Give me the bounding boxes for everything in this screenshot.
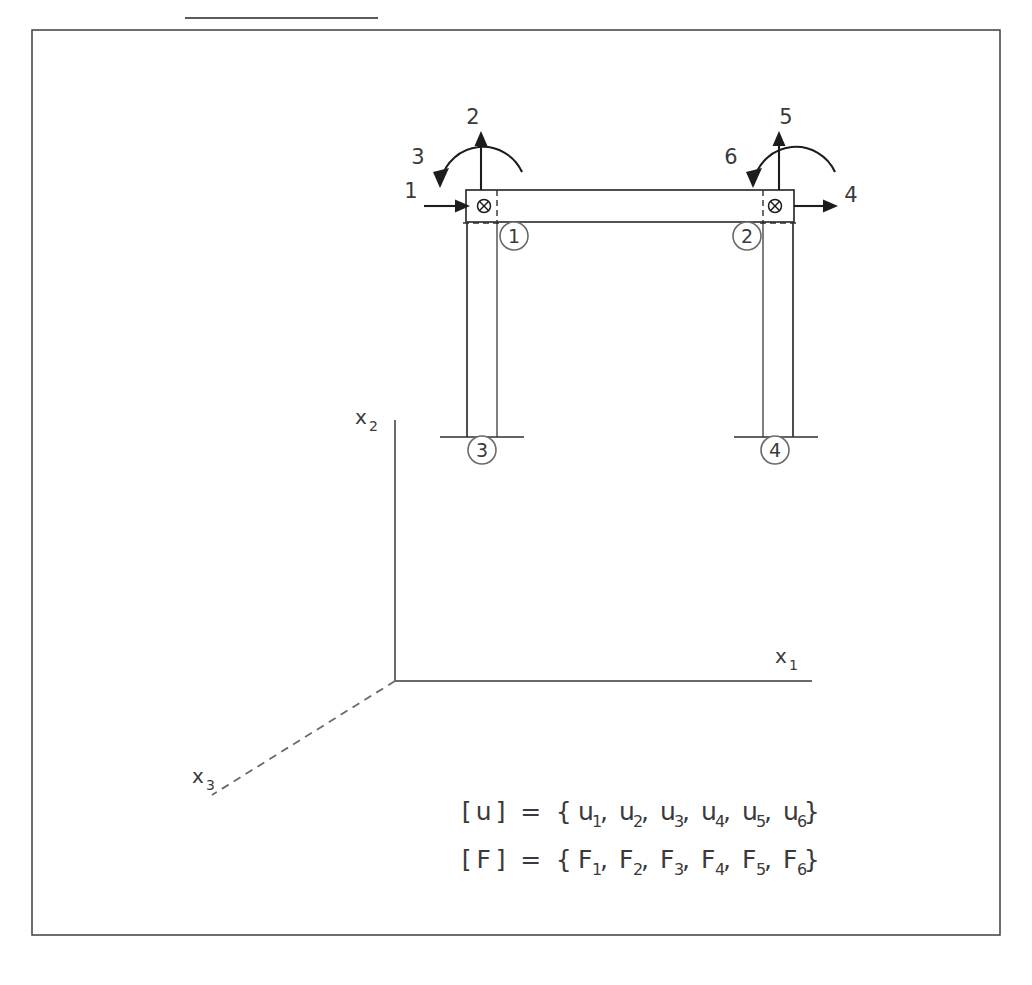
axis-x3-line	[212, 681, 395, 795]
axis-x3-base: x	[192, 764, 204, 788]
axis-label-x3: x 3	[192, 764, 215, 793]
dof-label-1: 1	[404, 179, 417, 203]
dof-arrow-5	[773, 131, 786, 190]
axis-label-x1: x 1	[775, 644, 798, 673]
eq-f-brace-open: {	[556, 845, 572, 874]
eq-f-comma-3: ,	[682, 845, 690, 874]
axis-x1-base: x	[775, 644, 787, 668]
dof-4-head	[823, 200, 838, 213]
node-3-label: 3	[476, 439, 488, 461]
eq-u-brace-open: {	[556, 797, 572, 826]
eq-f-term-6-base: F	[783, 845, 798, 874]
eq-u-comma-1: ,	[600, 797, 608, 826]
node-2-label: 2	[741, 225, 753, 247]
eq-f-term-3-base: F	[660, 845, 675, 874]
axis-x2-base: x	[355, 405, 367, 429]
eq-u-bracket-close: ]	[496, 797, 506, 826]
eq-u-symbol: u	[476, 797, 492, 826]
dof-label-5: 5	[779, 105, 792, 129]
eq-f-comma-1: ,	[600, 845, 608, 874]
eq-f-bracket-close: ]	[496, 845, 506, 874]
equation-force: [ F ] = { F 1 , F 2 , F 3 , F 4 , F 5 , …	[462, 845, 820, 879]
eq-f-bracket-open: [	[462, 845, 472, 874]
joint-marker-left	[478, 200, 491, 213]
eq-u-comma-2: ,	[641, 797, 649, 826]
joint-marker-right	[769, 200, 782, 213]
axis-x1-subscript: 1	[789, 657, 798, 673]
axis-x2-subscript: 2	[369, 418, 378, 434]
node-1-label: 1	[508, 225, 520, 247]
node-2: 2	[733, 222, 761, 250]
dof-3-head	[433, 168, 449, 188]
eq-f-term-4-base: F	[701, 845, 716, 874]
page-border	[32, 30, 1000, 935]
dof-2-head	[475, 131, 488, 146]
axis-label-x2: x 2	[355, 405, 378, 434]
eq-f-comma-2: ,	[641, 845, 649, 874]
eq-f-symbol: F	[477, 845, 492, 874]
dof-label-3: 3	[411, 145, 424, 169]
dof-label-4: 4	[844, 183, 857, 207]
portal-frame-diagram: 1 2 3 4 5 6	[0, 0, 1032, 985]
eq-u-comma-5: ,	[764, 797, 772, 826]
node-4-label: 4	[769, 439, 781, 461]
axis-x3-subscript: 3	[206, 777, 215, 793]
eq-f-term-5-base: F	[742, 845, 757, 874]
dof-6-head	[746, 168, 762, 188]
portal-frame-structure	[440, 190, 818, 437]
node-1: 1	[500, 222, 528, 250]
eq-u-bracket-open: [	[462, 797, 472, 826]
dof-6-arc	[754, 147, 835, 180]
equation-displacement: [ u ] = { u 1 , u 2 , u 3 , u 4 , u 5 , …	[462, 797, 820, 831]
eq-f-term-1-base: F	[578, 845, 593, 874]
eq-f-comma-5: ,	[764, 845, 772, 874]
dof-arrow-1	[424, 200, 470, 213]
eq-f-term-2-base: F	[619, 845, 634, 874]
node-4: 4	[761, 436, 789, 464]
coordinate-axes	[212, 420, 812, 795]
dof-arrow-3	[433, 147, 522, 188]
eq-u-comma-3: ,	[682, 797, 690, 826]
figure-root: 1 2 3 4 5 6	[0, 0, 1032, 985]
dof-arrow-6	[746, 147, 835, 188]
dof-5-head	[773, 131, 786, 146]
dof-label-6: 6	[724, 145, 737, 169]
dof-label-2: 2	[466, 105, 479, 129]
eq-f-comma-4: ,	[723, 845, 731, 874]
eq-f-brace-close: }	[804, 845, 820, 874]
dof-arrow-2	[475, 131, 488, 190]
dof-arrow-4	[794, 200, 838, 213]
beam-outer	[466, 190, 794, 222]
eq-u-brace-close: }	[804, 797, 820, 826]
eq-f-equals: =	[520, 845, 541, 874]
eq-u-equals: =	[520, 797, 541, 826]
eq-u-comma-4: ,	[723, 797, 731, 826]
node-3: 3	[468, 436, 496, 464]
dof-1-head	[455, 200, 470, 213]
